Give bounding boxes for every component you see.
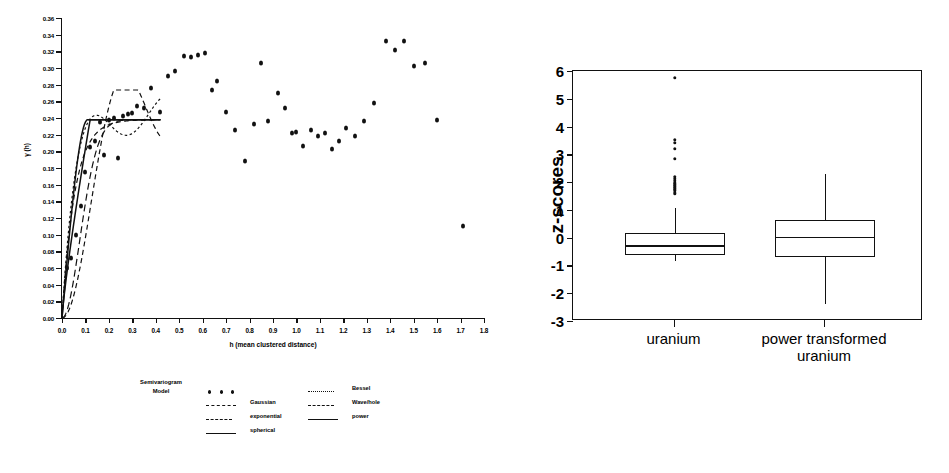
boxplot-y-tick-label: 3 (556, 146, 564, 163)
model-curve-power (62, 120, 160, 318)
y-tick (56, 18, 61, 19)
legend-item-label: exponential (250, 413, 282, 419)
boxplot-y-tick-label: 4 (556, 118, 564, 135)
legend-title: Semivariogram Model (130, 378, 192, 396)
y-tick-label: 0.36 (43, 15, 54, 22)
scatter-point (252, 121, 256, 126)
boxplot-lower-whisker (825, 257, 826, 304)
y-tick (56, 151, 61, 152)
boxplot-y-tick-label: -1 (551, 257, 564, 274)
legend-line-sample (308, 405, 334, 406)
boxplot-y-axis-label: z-scores (546, 156, 568, 233)
x-tick-label: 1.1 (316, 327, 324, 334)
figure-root: γ (h) 0.000.020.040.060.080.100.120.140.… (0, 0, 949, 473)
y-tick (56, 101, 61, 102)
scatter-point (74, 232, 78, 237)
y-tick (56, 35, 61, 36)
scatter-point (203, 51, 207, 56)
boxplot-y-tick (567, 321, 573, 322)
scatter-point (102, 152, 106, 157)
legend-dot-marker (208, 390, 211, 394)
legend-title-line1: Semivariogram (130, 378, 192, 387)
y-tick-label: 0.00 (43, 315, 54, 322)
x-tick (85, 318, 86, 323)
scatter-point (461, 224, 465, 229)
semivariogram-plot-area (62, 18, 484, 318)
scatter-point (259, 61, 263, 66)
x-tick-label: 1.0 (292, 327, 300, 334)
legend-line-sample (206, 433, 236, 434)
y-tick (56, 51, 61, 52)
scatter-point (393, 47, 397, 52)
scatter-point (243, 158, 247, 163)
boxplot-y-tick-label: 0 (556, 229, 564, 246)
scatter-point (126, 111, 130, 116)
y-tick (56, 168, 61, 169)
legend-key-dash-short (308, 390, 344, 393)
scatter-point (224, 110, 228, 115)
x-tick (484, 318, 485, 323)
y-tick-label: 0.06 (43, 265, 54, 272)
scatter-point (362, 119, 366, 124)
scatter-point (344, 126, 348, 131)
y-tick-label: 0.12 (43, 215, 54, 222)
x-tick-label: 0.0 (58, 327, 66, 334)
x-tick (132, 318, 133, 323)
boxplot-y-tick-label: 6 (556, 63, 564, 80)
legend-line-sample (206, 405, 236, 406)
legend-key-solid (308, 418, 344, 421)
x-tick-label: 1.5 (410, 327, 418, 334)
legend-item-label: power (352, 413, 369, 419)
scatter-point (79, 203, 83, 208)
y-tick (56, 235, 61, 236)
y-tick-label: 0.14 (43, 198, 54, 205)
scatter-point (65, 266, 69, 271)
legend-key-dash-med (308, 404, 344, 407)
legend-key-dash-long (206, 404, 242, 407)
y-tick (56, 135, 61, 136)
boxplot-category-label: uranium (646, 330, 700, 347)
x-tick (109, 318, 110, 323)
y-tick-label: 0.10 (43, 231, 54, 238)
x-tick (179, 318, 180, 323)
scatter-point (330, 146, 334, 151)
semivariogram-legend: Semivariogram Model Gaussianexponentials… (130, 378, 400, 446)
legend-line-sample (206, 419, 232, 420)
legend-item-label: Gaussian (250, 399, 276, 405)
model-curve-spherical (62, 120, 160, 318)
y-tick (56, 268, 61, 269)
scatter-point (112, 116, 116, 121)
scatter-point (283, 106, 287, 111)
x-tick (62, 318, 63, 323)
boxplot-category-label-line: uranium (646, 330, 700, 347)
boxplot-panel: z-scores 6543210-1-2-3 uraniumpower tran… (510, 0, 949, 473)
x-tick (250, 318, 251, 323)
model-curve-gaussian (62, 120, 160, 318)
y-tick-label: 0.18 (43, 165, 54, 172)
scatter-point (116, 156, 120, 161)
x-tick-label: 1.4 (386, 327, 394, 334)
legend-title-line2: Model (130, 387, 192, 396)
y-tick-label: 0.16 (43, 181, 54, 188)
y-tick (56, 285, 61, 286)
scatter-point (233, 127, 237, 132)
model-curve-exponential (62, 120, 160, 318)
x-tick-label: 0.4 (152, 327, 160, 334)
x-tick-label: 0.7 (222, 327, 230, 334)
semivariogram-y-axis-label: γ (h) (23, 143, 30, 157)
y-tick-label: 0.34 (43, 31, 54, 38)
boxplot-category-label-line: uranium (761, 347, 886, 364)
y-tick (56, 301, 61, 302)
legend-key-dash-med (206, 418, 242, 421)
scatter-point (316, 133, 320, 138)
legend-dot-marker (220, 390, 223, 394)
y-tick (56, 218, 61, 219)
y-tick (56, 85, 61, 86)
x-tick (320, 318, 321, 323)
legend-dot-marker (231, 390, 234, 394)
x-tick (296, 318, 297, 323)
boxplot-category-label-line: power transformed (761, 330, 886, 347)
x-tick-label: 0.9 (269, 327, 277, 334)
x-tick (343, 318, 344, 323)
scatter-point (130, 111, 134, 116)
